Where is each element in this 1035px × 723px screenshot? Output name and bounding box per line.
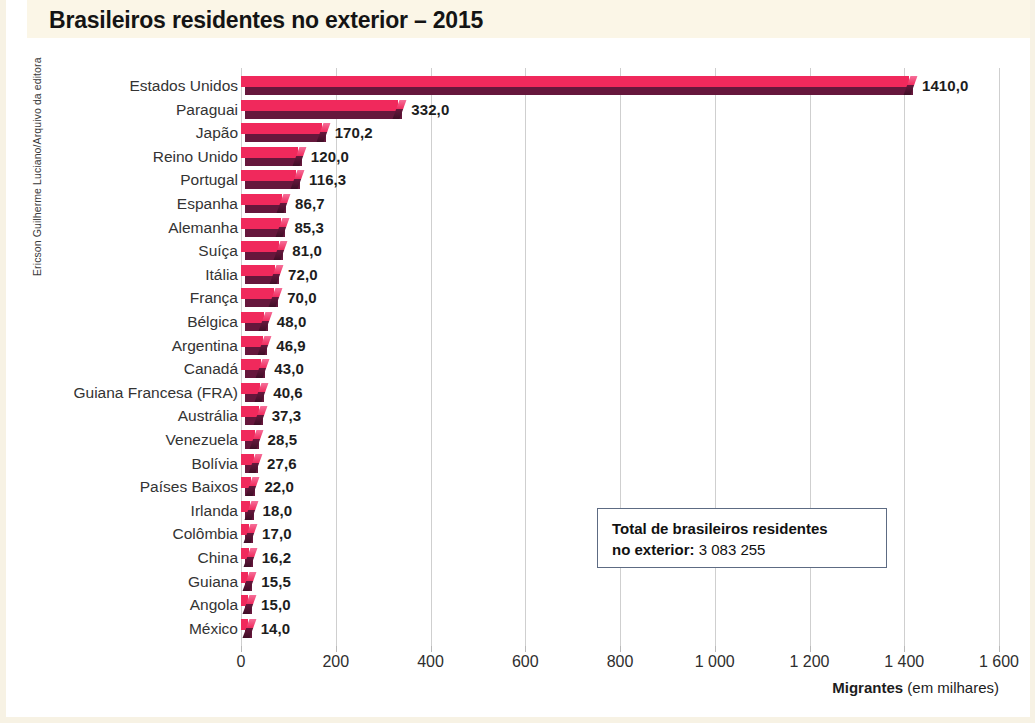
- bar-row: França70,0: [0, 288, 1035, 312]
- bar-value-label: 15,0: [261, 596, 291, 613]
- bar[interactable]: [241, 312, 272, 334]
- bar-row: Guiana15,5: [0, 572, 1035, 596]
- x-tick-label: 1 600: [979, 653, 1019, 671]
- bar-value-label: 22,0: [264, 478, 294, 495]
- x-tick-0: [241, 646, 242, 652]
- bar-value-label: 46,9: [276, 337, 306, 354]
- bar[interactable]: [241, 383, 268, 405]
- bar-value-label: 16,2: [262, 549, 292, 566]
- bar-value-label: 81,0: [292, 242, 322, 259]
- bar-row: Venezuela28,5: [0, 430, 1035, 454]
- bar-value-label: 48,0: [277, 313, 307, 330]
- category-label: Bolívia: [191, 454, 238, 473]
- bar[interactable]: [241, 572, 256, 594]
- bar-value-label: 72,0: [288, 266, 318, 283]
- category-label: Paraguai: [176, 100, 238, 119]
- x-tick-label: 1 200: [789, 653, 829, 671]
- bar[interactable]: [241, 288, 282, 310]
- bar[interactable]: [241, 477, 259, 499]
- bar-top-face: [241, 265, 275, 276]
- x-tick-label: 200: [322, 653, 349, 671]
- bar[interactable]: [241, 265, 283, 287]
- x-tick-label: 1 000: [695, 653, 735, 671]
- x-axis-caption: Migrantes (em milhares): [832, 679, 999, 696]
- total-callout-line1: Total de brasileiros residentes: [612, 520, 828, 537]
- x-tick-1000: [715, 646, 716, 652]
- bar[interactable]: [241, 619, 256, 641]
- bar-row: Portugal116,3: [0, 170, 1035, 194]
- bar[interactable]: [241, 123, 330, 145]
- category-label: Canadá: [184, 359, 238, 378]
- bar-row: Bolívia27,6: [0, 454, 1035, 478]
- category-label: Bélgica: [187, 312, 238, 331]
- bar-row: Japão170,2: [0, 123, 1035, 147]
- bar[interactable]: [241, 170, 304, 192]
- category-label: Angola: [190, 595, 238, 614]
- bar[interactable]: [241, 359, 269, 381]
- bar-row: Países Baixos22,0: [0, 477, 1035, 501]
- bar[interactable]: [241, 241, 287, 263]
- bar-value-label: 14,0: [261, 620, 291, 637]
- bar-row: Estados Unidos1410,0: [0, 76, 1035, 100]
- bar-value-label: 17,0: [262, 525, 292, 542]
- x-tick-1600: [999, 646, 1000, 652]
- bar-top-face: [241, 76, 909, 87]
- bar[interactable]: [241, 100, 406, 122]
- plot-area: 02004006008001 0001 2001 4001 600Estados…: [0, 0, 1035, 723]
- x-tick-label: 1 400: [884, 653, 924, 671]
- bar-row: Espanha86,7: [0, 194, 1035, 218]
- x-tick-600: [525, 646, 526, 652]
- bar-value-label: 70,0: [287, 289, 317, 306]
- bar-shadow-face: [245, 87, 913, 95]
- bar[interactable]: [241, 218, 289, 240]
- category-label: Colômbia: [173, 524, 238, 543]
- bar-value-label: 116,3: [309, 171, 346, 188]
- bar-top-face: [241, 288, 274, 299]
- bar[interactable]: [241, 524, 257, 546]
- bar-shadow-face: [245, 111, 402, 119]
- bar[interactable]: [241, 430, 263, 452]
- bar-row: Austrália37,3: [0, 406, 1035, 430]
- category-label: Estados Unidos: [129, 76, 238, 95]
- category-label: Argentina: [172, 336, 238, 355]
- total-callout-box: Total de brasileiros residentes no exter…: [597, 508, 887, 568]
- x-tick-400: [431, 646, 432, 652]
- bar-top-face: [241, 170, 296, 181]
- x-axis-caption-rest: (em milhares): [903, 679, 999, 696]
- bar-value-label: 15,5: [261, 573, 291, 590]
- bar-value-label: 40,6: [273, 384, 303, 401]
- category-label: França: [190, 288, 238, 307]
- bar-row: Suíça81,0: [0, 241, 1035, 265]
- bar-top-face: [241, 194, 282, 205]
- category-label: China: [198, 548, 239, 567]
- bar-top-face: [241, 218, 281, 229]
- bar[interactable]: [241, 454, 262, 476]
- bar-value-label: 1410,0: [922, 77, 968, 94]
- bar-row: Canadá43,0: [0, 359, 1035, 383]
- bar[interactable]: [241, 76, 917, 98]
- x-tick-1200: [810, 646, 811, 652]
- bar[interactable]: [241, 336, 271, 358]
- bar[interactable]: [241, 194, 290, 216]
- bar-value-label: 18,0: [263, 502, 293, 519]
- bar-value-label: 27,6: [267, 455, 297, 472]
- bar[interactable]: [241, 406, 267, 428]
- bar[interactable]: [241, 501, 258, 523]
- category-label: Austrália: [178, 406, 238, 425]
- bar-row: Paraguai332,0: [0, 100, 1035, 124]
- bar-row: Alemanha85,3: [0, 218, 1035, 242]
- category-label: Irlanda: [191, 501, 238, 520]
- total-callout-label: no exterior:: [612, 541, 695, 558]
- bar-shadow-face: [245, 134, 326, 142]
- x-tick-1400: [904, 646, 905, 652]
- x-tick-label: 600: [512, 653, 539, 671]
- x-tick-label: 400: [417, 653, 444, 671]
- category-label: Alemanha: [168, 218, 238, 237]
- bar-row: México14,0: [0, 619, 1035, 643]
- bar[interactable]: [241, 595, 256, 617]
- bar[interactable]: [241, 147, 306, 169]
- bar[interactable]: [241, 548, 257, 570]
- bar-value-label: 43,0: [274, 360, 304, 377]
- x-axis-caption-strong: Migrantes: [832, 679, 903, 696]
- bar-row: Argentina46,9: [0, 336, 1035, 360]
